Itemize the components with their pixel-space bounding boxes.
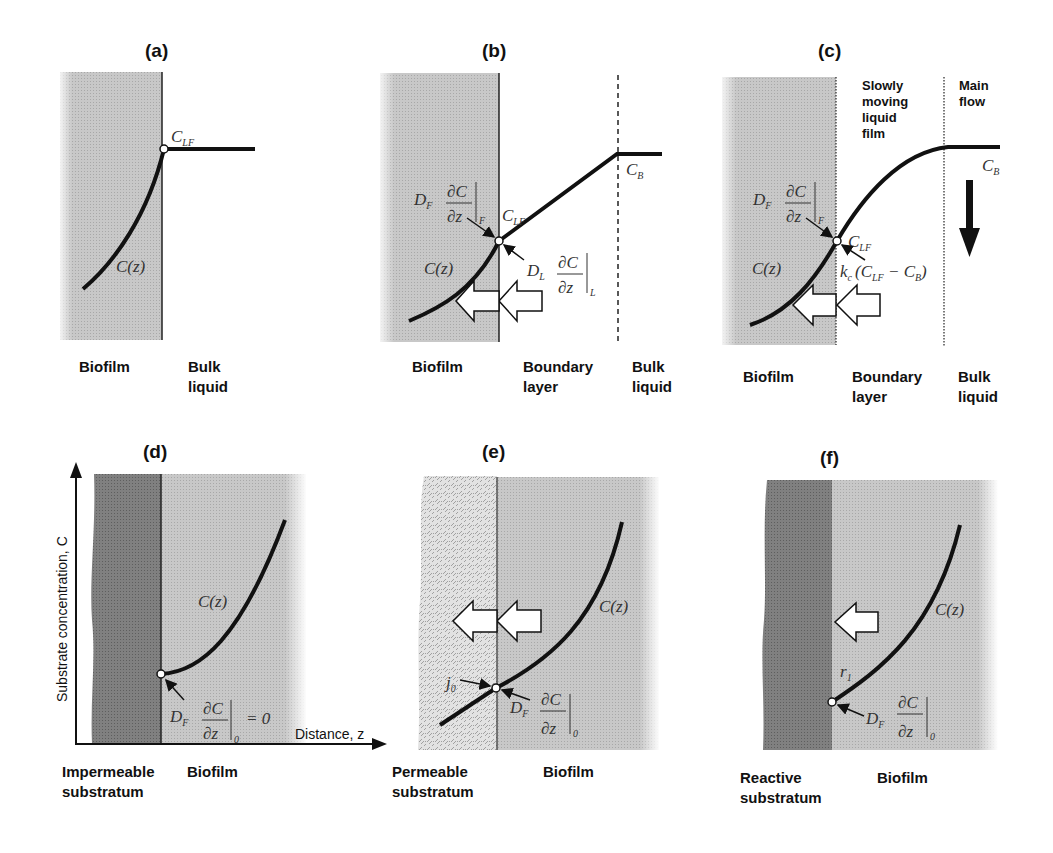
flux-dz: ∂z [203,724,218,743]
interface-concentration-label: CLF [848,232,872,253]
main-flow-shaft [966,180,973,232]
interface-concentration-label: CLF [502,206,526,227]
region-label-biofilm: Biofilm [187,763,238,780]
interface-point [160,145,168,153]
zone-label-slowly: Slowly [862,78,904,93]
flux-biofilm-dC: ∂C [447,182,467,201]
flux-dC: ∂C [203,699,223,718]
x-axis-arrow-icon [372,738,387,750]
region-label-liquid: liquid [188,378,228,395]
svg-text:0: 0 [573,728,578,739]
svg-text:L: L [589,287,596,298]
flux-equals-zero: = 0 [246,709,271,728]
y-axis-arrow-icon [70,462,82,478]
panel-a-title: (a) [145,40,168,61]
region-label-boundary: Boundary [523,358,594,375]
flux-biofilm-dz: ∂z [786,207,801,226]
region-label-bulk: Bulk [188,358,221,375]
zone-label-moving: moving [862,94,908,109]
fade-edge [978,480,998,750]
region-label-bulk: Bulk [632,358,665,375]
profile-label: C(z) [752,259,782,278]
mass-transfer-expression: kc(CLF − CB) [840,262,927,283]
main-flow-arrow-icon [959,228,980,257]
reactive-substratum-region [762,480,832,750]
flux-biofilm-dz: ∂z [447,207,462,226]
profile-label: C(z) [424,259,454,278]
svg-text:0: 0 [234,734,239,745]
region-label-reactive: Reactive [740,769,802,786]
biofilm-boundary-conditions-figure: (a) CLF C(z) Biofilm Bulk liquid (b) DF … [0,0,1053,853]
bulk-concentration-label: CB [982,156,999,177]
flux-liquid-dC: ∂C [558,253,578,272]
fade-edge [640,477,660,750]
flux-liquid-dz: ∂z [558,278,573,297]
panel-f: (f) C(z) r1 DF ∂C ∂z 0 Reactive substrat… [740,447,998,806]
biofilm-region [161,474,306,744]
flux-liquid-pointer [504,245,524,260]
profile-label: C(z) [935,600,965,619]
svg-text:F: F [478,215,486,226]
region-label-biofilm: Biofilm [543,763,594,780]
region-label-biofilm: Biofilm [743,368,794,385]
interface-point [833,237,841,245]
interface-point [495,237,503,245]
zone-label-main: Main [959,78,989,93]
boundary-layer-linear-profile [499,154,662,241]
fade-edge [380,73,394,342]
region-label-biofilm: Biofilm [79,358,130,375]
fade-edge [722,77,736,345]
region-label-biofilm: Biofilm [412,358,463,375]
flux-dC: ∂C [541,690,561,709]
interface-point [828,698,836,706]
fade-edge [60,72,72,340]
panel-e-title: (e) [482,441,505,462]
x-axis-label: Distance, z [295,726,364,742]
panel-d-title: (d) [143,441,167,462]
y-axis-label: Substrate concentration, C [54,536,70,702]
profile-label: C(z) [198,592,228,611]
flux-arrow-liquid [499,281,542,321]
zone-label-liquid: liquid [862,110,897,125]
interface-concentration-label: CLF [171,127,195,148]
region-label-biofilm: Biofilm [877,769,928,786]
profile-label: C(z) [116,257,146,276]
region-label-boundary: Boundary [852,368,923,385]
interface-point [157,670,165,678]
flux-liquid-D: DL [526,261,545,282]
panel-f-title: (f) [820,447,839,468]
fade-edge [285,474,307,744]
panel-a: (a) CLF C(z) Biofilm Bulk liquid [60,40,255,395]
flux-arrow-liquid [837,285,880,325]
panel-b-title: (b) [482,40,506,61]
bulk-concentration-label: CB [626,160,643,181]
region-label-permeable: Permeable [392,763,468,780]
region-label-substratum: substratum [62,783,144,800]
region-label-substratum: substratum [392,783,474,800]
panel-c-title: (c) [818,40,841,61]
region-label-impermeable: Impermeable [62,763,155,780]
flux-dC: ∂C [898,693,918,712]
zone-label-film: film [862,126,885,141]
impermeable-substratum-region [91,474,161,744]
flux-dz: ∂z [898,722,913,741]
panel-b: (b) DF ∂C ∂z F CLF CB C(z) DL ∂C ∂z L Bi… [380,40,672,395]
region-label-layer: layer [852,388,887,405]
biofilm-region [60,72,162,340]
panel-e: (e) C(z) j0 DF ∂C ∂z 0 Permeable substra… [392,441,660,800]
svg-text:0: 0 [930,731,935,742]
panel-c: (c) Slowly moving liquid film Main flow … [722,40,1000,405]
region-label-liquid: liquid [958,388,998,405]
region-label-liquid: liquid [632,378,672,395]
svg-text:F: F [817,215,825,226]
region-label-substratum: substratum [740,789,822,806]
profile-label: C(z) [599,597,629,616]
panel-d: (d) Substrate concentration, C Distance,… [54,441,387,800]
zone-label-flow: flow [959,94,986,109]
region-label-bulk: Bulk [958,368,991,385]
interface-point [492,684,500,692]
flux-biofilm-dC: ∂C [786,182,806,201]
flux-dz: ∂z [541,719,556,738]
region-label-layer: layer [523,378,558,395]
